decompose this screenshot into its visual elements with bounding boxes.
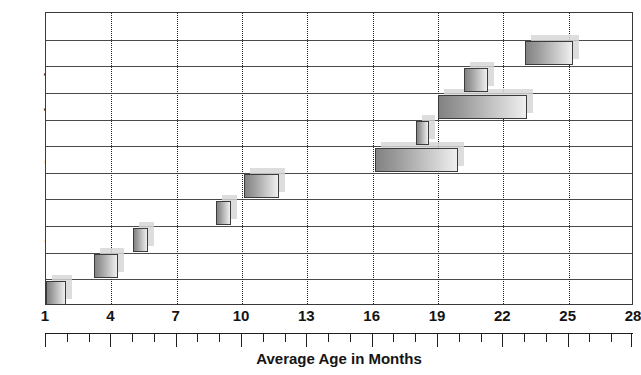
bar-range-9	[464, 68, 488, 92]
x-tick-label-28: 28	[625, 307, 641, 324]
gridline-x-7	[177, 13, 178, 304]
x-axis-title: Average Age in Months	[45, 350, 633, 367]
minor-tick-9	[219, 334, 220, 342]
x-tick-label-13: 13	[298, 307, 315, 324]
x-tick-label-4: 4	[106, 307, 114, 324]
major-tick-4	[110, 334, 111, 347]
bar-chart: Language Comprehension 14710131619222528…	[0, 0, 641, 375]
bar-range-1	[46, 281, 66, 305]
minor-tick-3	[89, 334, 90, 342]
minor-tick-24	[546, 334, 547, 342]
minor-tick-21	[481, 334, 482, 342]
x-tick-label-22: 22	[494, 307, 511, 324]
major-tick-1	[45, 334, 46, 347]
minor-tick-27	[611, 334, 612, 342]
bar-range-8	[438, 95, 527, 119]
bar-range-10	[525, 41, 573, 65]
row-separator-line	[46, 173, 632, 174]
x-tick-label-25: 25	[559, 307, 576, 324]
major-tick-19	[437, 334, 438, 347]
minor-tick-12	[285, 334, 286, 342]
gridline-x-16	[373, 13, 374, 304]
minor-tick-14	[328, 334, 329, 342]
bar-range-6	[375, 148, 458, 172]
plot-area	[45, 12, 633, 305]
major-tick-16	[372, 334, 373, 347]
x-tick-label-19: 19	[429, 307, 446, 324]
minor-tick-17	[393, 334, 394, 342]
minor-tick-15	[350, 334, 351, 342]
minor-tick-26	[589, 334, 590, 342]
major-tick-7	[176, 334, 177, 347]
major-tick-28	[631, 334, 632, 347]
major-tick-22	[502, 334, 503, 347]
minor-tick-2	[67, 334, 68, 342]
x-tick-label-10: 10	[233, 307, 250, 324]
x-axis-ruler	[45, 333, 633, 346]
major-tick-10	[241, 334, 242, 347]
minor-tick-23	[524, 334, 525, 342]
row-separator-line	[46, 120, 632, 121]
x-tick-label-7: 7	[171, 307, 179, 324]
minor-tick-5	[132, 334, 133, 342]
x-tick-label-1: 1	[41, 307, 49, 324]
bar-range-2	[94, 254, 118, 278]
x-tick-label-16: 16	[363, 307, 380, 324]
minor-tick-11	[263, 334, 264, 342]
row-separator-line	[46, 253, 632, 254]
minor-tick-20	[459, 334, 460, 342]
bar-range-5	[244, 174, 279, 198]
gridline-x-10	[242, 13, 243, 304]
gridline-x-22	[503, 13, 504, 304]
row-separator-line	[46, 279, 632, 280]
row-separator-line	[46, 146, 632, 147]
gridline-x-13	[307, 13, 308, 304]
bar-range-4	[216, 201, 231, 225]
row-separator-line	[46, 93, 632, 94]
minor-tick-18	[415, 334, 416, 342]
major-tick-25	[568, 334, 569, 347]
bar-range-7	[416, 121, 429, 145]
minor-tick-6	[154, 334, 155, 342]
major-tick-13	[306, 334, 307, 347]
bar-range-3	[133, 228, 148, 252]
row-separator-line	[46, 199, 632, 200]
row-separator-line	[46, 66, 632, 67]
minor-tick-8	[197, 334, 198, 342]
